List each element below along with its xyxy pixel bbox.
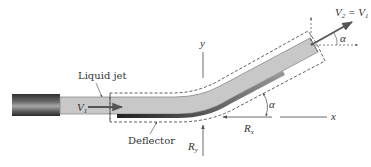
- outlet-velocity-arrow: [311, 22, 352, 45]
- liquid-jet-leader: [96, 83, 102, 97]
- deflector-leader: [150, 122, 157, 134]
- exit-angle-label: α: [340, 32, 346, 44]
- y-axis-label: y: [199, 37, 205, 49]
- deflector-angle-label: α: [269, 98, 275, 110]
- deflector-angle-arc: [263, 93, 267, 116]
- exit-angle-arc: [334, 33, 337, 45]
- outlet-velocity-label: V2 = V1: [335, 6, 368, 20]
- liquid-jet-label: Liquid jet: [78, 70, 127, 81]
- reaction-y-label: Ry: [187, 140, 199, 154]
- nozzle-shape: [12, 94, 60, 116]
- reaction-x-label: Rx: [243, 122, 255, 136]
- deflector-label: Deflector: [128, 135, 175, 146]
- liquid-jet-deflector-diagram: V1 Liquid jet Deflector y x Rx α Ry V2 =…: [0, 0, 371, 167]
- x-axis-label: x: [330, 110, 336, 122]
